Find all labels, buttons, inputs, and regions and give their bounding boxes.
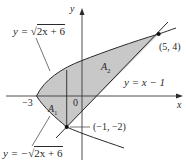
y-axis-label: y bbox=[70, 4, 74, 14]
upper-parabola-prefix: y = bbox=[13, 25, 31, 37]
y-axis-arrow-icon bbox=[80, 8, 85, 15]
upper-parabola-label: y = √2x + 6 bbox=[13, 26, 65, 37]
lower-parabola-label: y = −√2x + 6 bbox=[3, 148, 63, 159]
leader-upper-parabola bbox=[36, 38, 50, 71]
region-a2-label: A2 bbox=[101, 62, 111, 75]
tick-neg3-label: −3 bbox=[22, 98, 33, 108]
region-a2-subscript: 2 bbox=[107, 67, 111, 75]
point-neg1-neg2-label: (−1, −2) bbox=[93, 122, 126, 132]
upper-parabola-radicand: 2x + 6 bbox=[37, 24, 65, 37]
origin-label: 0 bbox=[73, 98, 78, 108]
sqrt-icon: √ bbox=[31, 25, 37, 37]
point-5-4-label: (5, 4) bbox=[159, 42, 181, 52]
point-5-4 bbox=[157, 32, 161, 36]
region-a1-subscript: 1 bbox=[54, 109, 58, 117]
leader-lower-parabola bbox=[32, 116, 50, 146]
lower-parabola-prefix: y = − bbox=[3, 147, 28, 159]
lower-parabola-radicand: 2x + 6 bbox=[34, 146, 62, 159]
line-label: y = x − 1 bbox=[124, 77, 165, 88]
region-a1-label: A1 bbox=[48, 104, 58, 117]
point-neg1-neg2 bbox=[65, 125, 69, 129]
x-axis-arrow-icon bbox=[176, 94, 183, 99]
x-axis-label: x bbox=[177, 100, 181, 110]
